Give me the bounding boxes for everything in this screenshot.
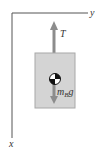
y-axis-label: y <box>89 7 95 18</box>
weight-label-main: m <box>57 86 64 97</box>
x-axis-label: x <box>8 138 14 149</box>
weight-label-tail: g <box>69 86 74 97</box>
tension-label: T <box>60 28 67 39</box>
tension-arrow-head <box>50 21 58 30</box>
free-body-diagram: y x T mBg <box>0 0 101 155</box>
center-of-mass-icon <box>50 74 61 85</box>
